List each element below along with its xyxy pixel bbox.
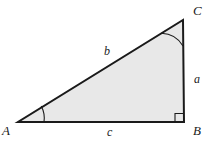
triangle-shape [18,20,184,122]
side-label-a: a [194,73,200,85]
triangle-svg [0,0,209,144]
side-label-b: b [104,45,110,57]
geometry-figure: A B C a b c [0,0,209,144]
vertex-label-b: B [193,124,201,137]
vertex-label-a: A [2,124,10,137]
side-label-c: c [107,126,112,138]
vertex-label-c: C [193,4,202,17]
